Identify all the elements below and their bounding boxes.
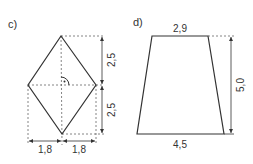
dim-height-label: 5,0 — [235, 78, 246, 92]
dim-right-label: 1,8 — [72, 144, 86, 155]
dim-upper-label: 2,5 — [106, 53, 117, 67]
geometry-figures: c) 2,5 2,5 1,8 1,8 d) — [0, 0, 253, 164]
dim-lower-label: 2,5 — [106, 103, 117, 117]
dim-bottom-label: 4,5 — [173, 139, 187, 150]
dim-left-label: 1,8 — [38, 144, 52, 155]
figure-c-label: c) — [8, 18, 17, 30]
figure-c: c) 2,5 2,5 1,8 1,8 — [8, 18, 117, 155]
dim-top-label: 2,9 — [173, 23, 187, 34]
figure-d-label: d) — [133, 16, 143, 28]
trapezoid — [137, 36, 224, 134]
figure-d: d) 2,9 4,5 5,0 — [133, 16, 246, 150]
